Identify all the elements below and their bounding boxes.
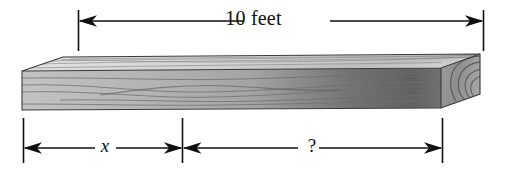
segment-unknown-label: ? (182, 136, 442, 155)
board-front-face (22, 66, 445, 112)
segment-x-label: x (0, 136, 210, 155)
figure-canvas: 10 feet x ? (0, 0, 507, 171)
total-length-label: 10 feet (0, 8, 507, 28)
wooden-board (22, 52, 484, 112)
